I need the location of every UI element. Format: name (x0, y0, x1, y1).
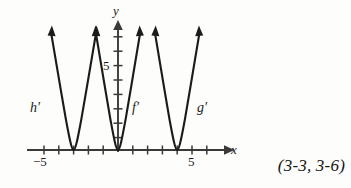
figure-caption: (3-3, 3-6) (278, 156, 345, 176)
x-axis-label: x (231, 143, 237, 156)
y-axis-label: y (113, 4, 119, 17)
curve-label-f-prime: f′ (132, 101, 139, 115)
curve-g-prime (151, 26, 203, 151)
figure-container: x y −5 5 5 h′ f′ g′ (3-3, 3-6) (0, 0, 351, 188)
y-axis-arrowhead-icon (113, 20, 123, 30)
f-prime-left-arrowhead-icon (92, 26, 100, 37)
curve-h-prime (48, 26, 100, 151)
curve-label-h-prime: h′ (30, 101, 40, 115)
x-axis (27, 145, 235, 155)
f-prime-right-arrowhead-icon (136, 26, 144, 37)
g-prime-left-arrowhead-icon (151, 26, 159, 37)
x-tick-label-neg5: −5 (33, 155, 47, 168)
h-prime-left-arrowhead-icon (48, 26, 56, 37)
h-prime-curve-path (52, 35, 96, 150)
y-tick-label-5: 5 (103, 59, 110, 72)
x-tick-label-5: 5 (188, 155, 195, 168)
curve-label-g-prime: g′ (197, 101, 207, 115)
y-axis (113, 20, 123, 152)
g-prime-right-arrowhead-icon (195, 26, 203, 37)
g-prime-curve-path (155, 35, 199, 150)
